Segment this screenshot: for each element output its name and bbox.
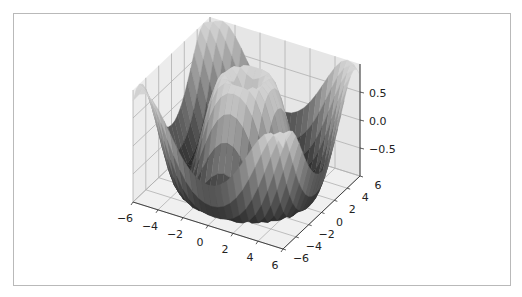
y-tick — [334, 200, 337, 201]
surface-plot-3d[interactable]: −6−4−20246−6−4−20246−0.50.00.5 — [0, 0, 522, 297]
x-tick-label: 6 — [272, 259, 279, 272]
y-tick — [322, 213, 325, 214]
x-tick-label: 4 — [247, 251, 254, 264]
x-tick — [206, 226, 208, 229]
y-tick-label: −6 — [293, 252, 309, 265]
z-tick-label: 0.0 — [369, 115, 387, 128]
y-tick-label: −4 — [306, 240, 322, 253]
y-tick-label: 6 — [375, 179, 382, 192]
x-tick-label: 2 — [222, 243, 229, 256]
y-tick — [309, 225, 312, 226]
y-tick — [283, 249, 286, 250]
x-tick — [256, 241, 258, 244]
x-tick — [181, 218, 183, 221]
z-tick-label: 0.5 — [369, 87, 387, 100]
y-tick-label: 4 — [362, 191, 369, 204]
y-tick — [347, 188, 350, 189]
x-tick — [281, 249, 283, 252]
z-tick — [360, 120, 364, 121]
y-tick-label: 0 — [336, 216, 343, 229]
y-tick-label: 2 — [349, 203, 356, 216]
z-tick-label: −0.5 — [369, 143, 396, 156]
z-tick — [360, 148, 364, 149]
x-tick-label: −2 — [167, 228, 183, 241]
y-tick — [360, 176, 363, 177]
y-tick — [296, 237, 299, 238]
x-tick-label: −6 — [117, 212, 133, 225]
z-tick — [360, 92, 364, 93]
x-tick — [156, 210, 158, 213]
y-tick-label: −2 — [319, 228, 335, 241]
x-tick-label: −4 — [142, 220, 158, 233]
x-tick — [131, 202, 133, 205]
x-tick-label: 0 — [197, 236, 204, 249]
x-tick — [231, 233, 233, 236]
